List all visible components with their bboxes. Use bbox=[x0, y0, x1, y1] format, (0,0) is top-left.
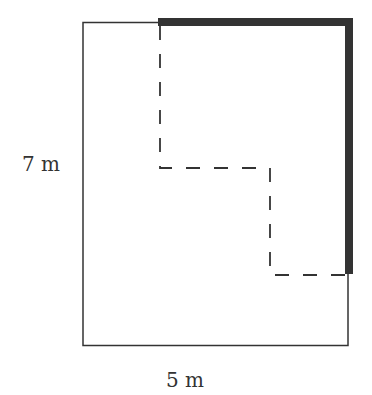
outer-rectangle bbox=[83, 23, 348, 346]
width-label: 5 m bbox=[166, 368, 204, 392]
dashed-path bbox=[160, 26, 347, 275]
thick-path bbox=[158, 22, 349, 274]
diagram-canvas: 7 m 5 m bbox=[0, 0, 372, 395]
height-label: 7 m bbox=[22, 152, 60, 176]
